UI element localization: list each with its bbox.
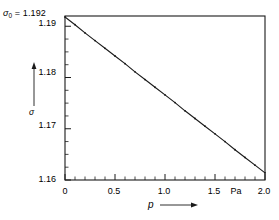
data-point <box>64 16 66 18</box>
x-axis-arrowhead-icon <box>191 203 198 208</box>
data-point <box>84 32 86 34</box>
data-point <box>184 110 186 112</box>
data-point <box>254 164 256 166</box>
data-point <box>194 118 196 120</box>
data-point <box>104 47 106 49</box>
data-point <box>144 79 146 81</box>
data-point <box>174 102 176 104</box>
data-point <box>114 55 116 57</box>
data-point <box>264 172 266 174</box>
data-point <box>224 141 226 143</box>
data-point <box>124 63 126 65</box>
data-point <box>164 94 166 96</box>
data-point <box>234 149 236 151</box>
data-point <box>154 86 156 88</box>
y-axis-arrowhead-icon <box>32 62 37 69</box>
data-point <box>204 125 206 127</box>
data-point <box>214 133 216 135</box>
data-point <box>244 157 246 159</box>
plot-area <box>0 0 279 220</box>
figure-container: σ0 = 1.192 σ 1.19 1.18 1.17 1.16 0 0.5 1… <box>0 0 279 220</box>
data-point <box>134 71 136 73</box>
data-point <box>74 24 76 26</box>
data-point <box>94 40 96 42</box>
